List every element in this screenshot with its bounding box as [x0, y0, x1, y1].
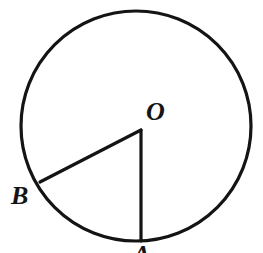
- geometry-canvas: [0, 0, 263, 253]
- geometry-figure: O B A: [0, 0, 263, 253]
- circle-outline: [21, 11, 251, 241]
- center-label-o: O: [146, 99, 165, 125]
- point-label-b: B: [11, 183, 28, 209]
- radius-OB-line: [40, 130, 141, 182]
- point-label-a: A: [133, 242, 150, 253]
